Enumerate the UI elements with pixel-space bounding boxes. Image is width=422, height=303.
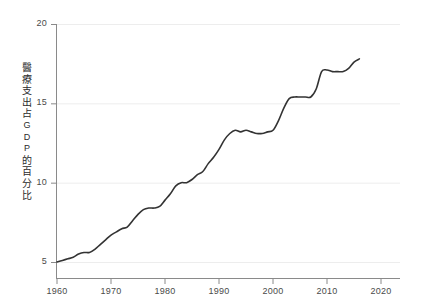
- y-axis-label-char: D: [20, 132, 34, 144]
- x-tick-label: 2000: [253, 286, 293, 296]
- x-tick-marks: [57, 279, 381, 285]
- data-series-line: [57, 59, 359, 262]
- x-tick-label: 1970: [91, 286, 131, 296]
- x-tick-label: 2010: [307, 286, 347, 296]
- y-tick-label: 15: [25, 97, 47, 107]
- y-axis-label-char: 的: [20, 155, 34, 167]
- y-axis-label-char: 醫: [20, 62, 34, 74]
- x-tick-label: 1960: [37, 286, 77, 296]
- y-axis-label-char: 占: [20, 108, 34, 120]
- y-tick-marks: [51, 25, 57, 263]
- gridlines: [57, 25, 400, 263]
- y-axis-label-char: 比: [20, 190, 34, 202]
- chart-container: 醫療支出占GDP的百分比 2015105 1960197019801990200…: [0, 0, 422, 303]
- axis-lines: [57, 24, 401, 279]
- y-tick-label: 20: [25, 18, 47, 28]
- x-tick-label: 1990: [199, 286, 239, 296]
- y-axis-label-char: 支: [20, 85, 34, 97]
- x-tick-label: 2020: [361, 286, 401, 296]
- line-chart-plot: [0, 0, 422, 303]
- y-axis-label-char: P: [20, 143, 34, 155]
- y-tick-label: 10: [25, 177, 47, 187]
- y-tick-label: 5: [25, 256, 47, 266]
- y-axis-label-char: 療: [20, 74, 34, 86]
- y-axis-label-char: G: [20, 120, 34, 132]
- x-tick-label: 1980: [145, 286, 185, 296]
